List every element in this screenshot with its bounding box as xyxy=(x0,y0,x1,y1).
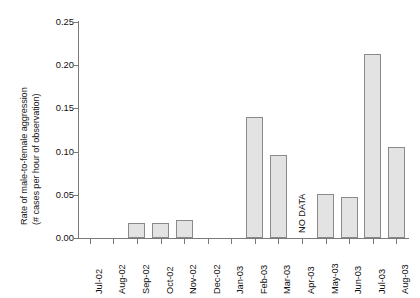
x-axis-tick-mark xyxy=(302,239,303,244)
x-axis-tick-label: Dec-02 xyxy=(212,264,222,294)
x-axis-tick-mark xyxy=(208,239,209,244)
x-axis-tick-label: Jun-03 xyxy=(353,266,363,294)
x-axis-tick-label: Aug-02 xyxy=(117,264,127,294)
bar xyxy=(152,223,169,238)
x-axis-tick-label: Aug-03 xyxy=(400,264,410,294)
bar xyxy=(128,223,145,238)
x-axis-tick-label: May-03 xyxy=(330,263,340,294)
x-axis-tick-labels: Jul-02Aug-02Sep-02Oct-02Nov-02Dec-02Jan-… xyxy=(78,246,408,298)
x-axis-tick-mark xyxy=(396,239,397,244)
bar-chart: Rate of male-to-female aggression (# cas… xyxy=(0,0,420,298)
x-axis-line xyxy=(78,238,409,239)
y-axis-tick-labels: 0.250.200.150.100.050.00 xyxy=(40,0,74,298)
bar xyxy=(317,194,334,238)
x-axis-tick-mark xyxy=(161,239,162,244)
x-axis-tick-mark xyxy=(113,239,114,244)
x-axis-tick-mark xyxy=(373,239,374,244)
y-axis-tick-label: 0.20 xyxy=(40,60,74,69)
bar xyxy=(176,220,193,238)
x-axis-tick-mark xyxy=(90,239,91,244)
y-axis-tick-label: 0.25 xyxy=(40,17,74,26)
x-axis-tick-label: Feb-03 xyxy=(259,265,269,294)
x-axis-tick-mark xyxy=(349,239,350,244)
x-axis-tick-mark xyxy=(184,239,185,244)
y-axis-tick-label: 0.00 xyxy=(40,233,74,242)
y-axis-tick-label: 0.05 xyxy=(40,190,74,199)
x-axis-tick-label: Sep-02 xyxy=(141,264,151,294)
x-axis-tick-mark xyxy=(255,239,256,244)
bar xyxy=(246,117,263,238)
x-axis-tick-mark xyxy=(231,239,232,244)
x-axis-tick-mark xyxy=(278,239,279,244)
x-axis-tick-label: Oct-02 xyxy=(165,266,175,294)
x-axis-tick-mark xyxy=(326,239,327,244)
x-axis-tick-mark xyxy=(137,239,138,244)
bar xyxy=(364,54,381,238)
y-axis-tick-label: 0.10 xyxy=(40,147,74,156)
y-axis-title-line-1: Rate of male-to-female aggression xyxy=(19,87,29,225)
y-axis-tick-label: 0.15 xyxy=(40,103,74,112)
x-axis-tick-label: Jul-03 xyxy=(377,269,387,294)
y-axis-tick-mark xyxy=(73,238,78,239)
x-axis-tick-label: Apr-03 xyxy=(306,266,316,294)
x-axis-tick-label: Mar-03 xyxy=(282,265,292,294)
bar-series xyxy=(78,22,408,238)
x-axis-tick-label: Nov-02 xyxy=(188,264,198,294)
bar xyxy=(388,147,405,238)
bar xyxy=(270,155,287,238)
bar xyxy=(341,197,358,238)
x-axis-tick-label: Jul-02 xyxy=(94,269,104,294)
x-axis-tick-label: Jan-03 xyxy=(235,266,245,294)
y-axis-title: Rate of male-to-female aggression (# cas… xyxy=(0,0,42,298)
no-data-annotation: NO DATA xyxy=(297,194,307,233)
